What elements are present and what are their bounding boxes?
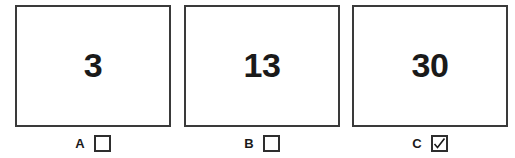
option-box-c: 30	[352, 5, 508, 127]
option-box-a: 3	[15, 5, 171, 127]
option-panel-c[interactable]: 30 C	[351, 0, 509, 158]
option-panel-a[interactable]: 3 A	[14, 0, 172, 158]
option-footer-a: A	[14, 132, 172, 154]
answer-options-figure: 3 A 13 B 30	[0, 0, 515, 158]
option-label-a: A	[75, 137, 84, 150]
option-box-b: 13	[184, 5, 340, 127]
option-panel-b[interactable]: 13 B	[183, 0, 341, 158]
option-checkbox-a[interactable]	[94, 135, 111, 152]
checkmark-icon	[433, 137, 446, 150]
option-label-c: C	[412, 137, 421, 150]
option-checkbox-c[interactable]	[431, 135, 448, 152]
panel-caption-b	[217, 0, 327, 1]
option-footer-b: B	[183, 132, 341, 154]
panel-caption-a	[48, 0, 158, 1]
option-footer-c: C	[351, 132, 509, 154]
option-label-b: B	[244, 137, 253, 150]
option-checkbox-b[interactable]	[263, 135, 280, 152]
option-value-b: 13	[186, 7, 338, 125]
option-value-c: 30	[354, 7, 506, 125]
option-value-a: 3	[17, 7, 169, 125]
